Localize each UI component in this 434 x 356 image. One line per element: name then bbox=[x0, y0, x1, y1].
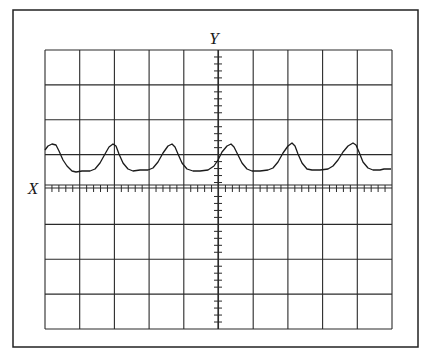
figure-caption bbox=[0, 349, 434, 356]
oscilloscope-screen: Y X bbox=[0, 0, 434, 356]
y-axis-label: Y bbox=[209, 29, 220, 48]
x-axis-label: X bbox=[27, 179, 39, 198]
background bbox=[0, 0, 434, 356]
